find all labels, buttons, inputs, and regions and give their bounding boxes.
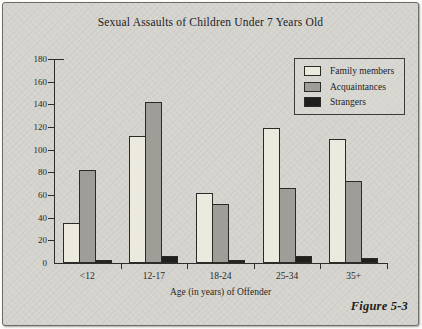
bar-strangers bbox=[161, 256, 178, 263]
x-axis-tick bbox=[254, 264, 255, 269]
legend-label: Strangers bbox=[330, 97, 366, 107]
y-axis-tick-label: 40 bbox=[19, 213, 47, 223]
legend-label: Family members bbox=[330, 66, 394, 76]
bar-family-members bbox=[63, 223, 80, 263]
y-axis-tick bbox=[48, 195, 54, 196]
bar-family-members bbox=[263, 128, 280, 263]
y-axis-tick bbox=[48, 59, 54, 60]
y-axis-tick-label: 180 bbox=[19, 54, 47, 64]
x-axis-tick bbox=[387, 264, 388, 269]
bar-family-members bbox=[196, 193, 213, 263]
bar-strangers bbox=[95, 260, 112, 263]
x-axis-category-label: 35+ bbox=[322, 271, 386, 281]
bar-strangers bbox=[228, 260, 245, 263]
y-axis-tick-label: 160 bbox=[19, 77, 47, 87]
x-axis-category-label: 12-17 bbox=[122, 271, 186, 281]
y-axis-top-cap bbox=[54, 59, 64, 60]
bar-family-members bbox=[329, 139, 346, 263]
legend-item: Family members bbox=[304, 66, 400, 76]
legend-swatch-icon bbox=[304, 66, 321, 76]
bar-acquaintances bbox=[145, 102, 162, 263]
y-axis-tick-label: 140 bbox=[19, 99, 47, 109]
y-axis-tick-label: 0 bbox=[19, 258, 47, 268]
x-axis-tick bbox=[121, 264, 122, 269]
figure-caption: Figure 5-3 bbox=[351, 299, 408, 314]
x-axis-category-label: 18-24 bbox=[189, 271, 253, 281]
y-axis-tick bbox=[48, 172, 54, 173]
y-axis-tick-label: 60 bbox=[19, 190, 47, 200]
bar-strangers bbox=[295, 256, 312, 263]
y-axis-tick-label: 100 bbox=[19, 145, 47, 155]
y-axis-tick bbox=[48, 82, 54, 83]
bar-acquaintances bbox=[345, 181, 362, 263]
y-axis-tick-label: 120 bbox=[19, 122, 47, 132]
bar-family-members bbox=[129, 136, 146, 263]
y-axis-tick bbox=[48, 218, 54, 219]
x-axis-title: Age (in years) of Offender bbox=[54, 287, 387, 297]
x-axis-line bbox=[54, 263, 388, 264]
y-axis-tick bbox=[48, 150, 54, 151]
x-axis-tick bbox=[187, 264, 188, 269]
bar-strangers bbox=[361, 258, 378, 263]
bar-acquaintances bbox=[79, 170, 96, 263]
y-axis-line bbox=[54, 59, 55, 263]
figure-card: Sexual Assaults of Children Under 7 Year… bbox=[2, 2, 419, 326]
y-axis-tick-label: 80 bbox=[19, 167, 47, 177]
bar-acquaintances bbox=[279, 188, 296, 263]
x-axis-tick bbox=[320, 264, 321, 269]
bar-acquaintances bbox=[212, 204, 229, 263]
chart-title: Sexual Assaults of Children Under 7 Year… bbox=[3, 16, 418, 28]
legend-item: Acquaintances bbox=[304, 82, 400, 92]
legend-swatch-icon bbox=[304, 82, 321, 92]
legend-swatch-icon bbox=[304, 97, 321, 107]
legend-item: Strangers bbox=[304, 97, 400, 107]
y-axis-tick bbox=[48, 240, 54, 241]
y-axis-tick-label: 20 bbox=[19, 235, 47, 245]
screenshot-stage: Sexual Assaults of Children Under 7 Year… bbox=[0, 0, 422, 329]
legend-label: Acquaintances bbox=[330, 82, 386, 92]
y-axis-tick bbox=[48, 104, 54, 105]
y-axis-tick bbox=[48, 127, 54, 128]
x-axis-category-label: <12 bbox=[55, 271, 119, 281]
x-axis-category-label: 25-34 bbox=[255, 271, 319, 281]
chart-legend: Family membersAcquaintancesStrangers bbox=[294, 58, 405, 115]
